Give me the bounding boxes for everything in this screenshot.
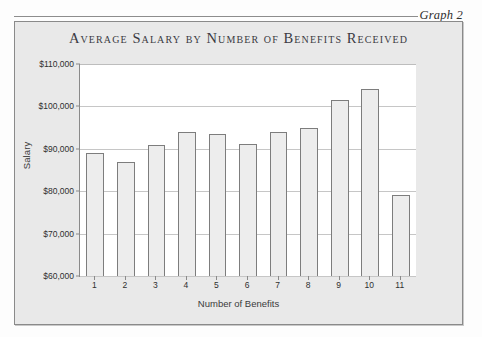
bar[interactable] (392, 195, 410, 276)
x-tick-slot: 4 (171, 276, 202, 290)
x-tick-label: 11 (384, 280, 415, 290)
bar-slot (80, 64, 111, 276)
bar-slot (141, 64, 172, 276)
x-tick-slot: 3 (140, 276, 171, 290)
bar[interactable] (239, 144, 257, 276)
x-tick-label: 10 (354, 280, 385, 290)
x-tick-slot: 10 (354, 276, 385, 290)
x-tick-label: 4 (171, 280, 202, 290)
bar[interactable] (331, 100, 349, 276)
bar-slot (324, 64, 355, 276)
x-tick-label: 6 (232, 280, 263, 290)
chart-frame: Average Salary by Number of Benefits Rec… (14, 21, 463, 325)
caption-rule (14, 16, 418, 17)
x-tick-slot: 9 (323, 276, 354, 290)
bar-slot (263, 64, 294, 276)
x-tick-label: 3 (140, 280, 171, 290)
x-axis-title: Number of Benefits (15, 298, 462, 309)
bar-slot (355, 64, 386, 276)
graph-page: Graph 2 Average Salary by Number of Bene… (0, 0, 482, 337)
y-tick-label: $60,000 (43, 271, 74, 281)
bar-slot (294, 64, 325, 276)
x-tick-slot: 11 (384, 276, 415, 290)
bar-series (80, 64, 416, 276)
chart-title: Average Salary by Number of Benefits Rec… (15, 30, 462, 47)
graph-number-label: Graph 2 (420, 8, 463, 22)
plot-area: $60,000$70,000$80,000$90,000$100,000$110… (79, 64, 416, 277)
x-tick-slot: 1 (79, 276, 110, 290)
x-tick-label: 5 (201, 280, 232, 290)
y-tick-label: $100,000 (39, 101, 74, 111)
bar[interactable] (86, 153, 104, 276)
y-tick-label: $70,000 (43, 229, 74, 239)
x-axis-ticks: 1234567891011 (79, 276, 415, 290)
bar-slot (172, 64, 203, 276)
bar-slot (233, 64, 264, 276)
bar[interactable] (209, 134, 227, 276)
bar[interactable] (300, 128, 318, 276)
bar-slot (385, 64, 416, 276)
y-axis-title: Salary (21, 121, 32, 191)
bar[interactable] (117, 162, 135, 276)
x-tick-label: 8 (293, 280, 324, 290)
y-tick-label: $80,000 (43, 186, 74, 196)
bar[interactable] (270, 132, 288, 276)
x-tick-slot: 7 (262, 276, 293, 290)
x-tick-label: 1 (79, 280, 110, 290)
x-tick-slot: 8 (293, 276, 324, 290)
graph-caption: Graph 2 (14, 4, 463, 22)
bar-slot (111, 64, 142, 276)
bar[interactable] (178, 132, 196, 276)
x-tick-label: 7 (262, 280, 293, 290)
x-tick-slot: 6 (232, 276, 263, 290)
y-tick-label: $110,000 (39, 59, 74, 69)
bar[interactable] (361, 89, 379, 276)
bar[interactable] (148, 145, 166, 276)
x-tick-label: 2 (110, 280, 141, 290)
x-tick-label: 9 (323, 280, 354, 290)
bar-slot (202, 64, 233, 276)
y-tick-label: $90,000 (43, 144, 74, 154)
x-tick-slot: 5 (201, 276, 232, 290)
x-tick-slot: 2 (110, 276, 141, 290)
